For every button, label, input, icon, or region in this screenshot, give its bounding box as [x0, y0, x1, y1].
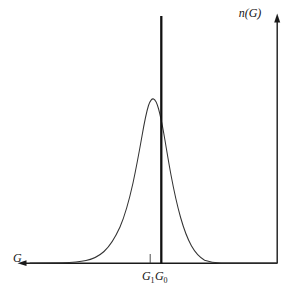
- plot-background: [0, 0, 290, 291]
- figure-container: n(G) G G 1 G 0: [0, 0, 290, 291]
- y-axis-label: n(G): [239, 6, 262, 20]
- g1-label-subscript: 1: [151, 276, 155, 285]
- distribution-plot-svg: n(G) G G 1 G 0: [0, 0, 290, 291]
- x-axis-label: G: [13, 251, 22, 265]
- g0-label-subscript: 0: [164, 276, 168, 285]
